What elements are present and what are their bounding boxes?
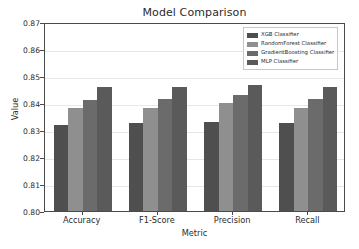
chart-title: Model Comparison bbox=[44, 6, 345, 19]
y-tick-mark bbox=[40, 131, 44, 132]
bar bbox=[68, 108, 83, 211]
bar bbox=[279, 123, 294, 211]
chart-figure: Model Comparison 0.800.810.820.830.840.8… bbox=[0, 0, 359, 249]
bar bbox=[219, 103, 234, 211]
y-tick-label: 0.82 bbox=[4, 154, 40, 163]
y-tick-label: 0.81 bbox=[4, 181, 40, 190]
bar bbox=[294, 108, 309, 211]
y-tick-mark bbox=[40, 77, 44, 78]
legend-label: XGB Classifier bbox=[261, 32, 299, 37]
x-tick-mark bbox=[232, 212, 233, 215]
bar-group bbox=[54, 24, 112, 211]
y-axis-label: Value bbox=[10, 79, 20, 139]
legend-item[interactable]: RandomForest Classifier bbox=[247, 40, 334, 48]
x-tick-label: F1-Score bbox=[139, 215, 175, 225]
bar bbox=[172, 87, 187, 211]
x-tick-label: Precision bbox=[214, 215, 251, 225]
legend-swatch-icon bbox=[247, 33, 258, 38]
bar bbox=[129, 123, 144, 211]
y-tick-mark bbox=[40, 23, 44, 24]
bar bbox=[248, 85, 263, 211]
bar bbox=[233, 95, 248, 211]
y-tick-label: 0.80 bbox=[4, 208, 40, 217]
bar bbox=[204, 122, 219, 211]
y-tick-mark bbox=[40, 50, 44, 51]
bar bbox=[97, 87, 112, 211]
x-tick-label: Recall bbox=[295, 215, 319, 225]
y-tick-mark bbox=[40, 158, 44, 159]
legend-item[interactable]: MLP Classifier bbox=[247, 58, 334, 66]
x-tick-mark bbox=[157, 212, 158, 215]
legend: XGB ClassifierRandomForest ClassifierGra… bbox=[243, 27, 338, 70]
legend-label: GradientBoosting Classifier bbox=[261, 50, 334, 55]
bar-group bbox=[129, 24, 187, 211]
y-tick-mark bbox=[40, 104, 44, 105]
bar bbox=[83, 100, 98, 211]
y-tick-label: 0.87 bbox=[4, 19, 40, 28]
bar bbox=[158, 99, 173, 211]
bar bbox=[323, 87, 338, 211]
legend-item[interactable]: GradientBoosting Classifier bbox=[247, 49, 334, 57]
x-tick-mark bbox=[307, 212, 308, 215]
y-tick-label: 0.86 bbox=[4, 46, 40, 55]
legend-label: RandomForest Classifier bbox=[261, 41, 326, 46]
x-axis-label: Metric bbox=[44, 228, 345, 238]
bar bbox=[143, 108, 158, 211]
bar bbox=[308, 99, 323, 211]
legend-label: MLP Classifier bbox=[261, 59, 298, 64]
y-axis-tick-labels: 0.800.810.820.830.840.850.860.87 bbox=[0, 0, 40, 249]
legend-swatch-icon bbox=[247, 42, 258, 47]
y-tick-mark bbox=[40, 185, 44, 186]
x-tick-mark bbox=[82, 212, 83, 215]
legend-item[interactable]: XGB Classifier bbox=[247, 31, 334, 39]
bar bbox=[54, 125, 69, 211]
y-tick-mark bbox=[40, 212, 44, 213]
legend-swatch-icon bbox=[247, 60, 258, 65]
legend-swatch-icon bbox=[247, 51, 258, 56]
x-tick-label: Accuracy bbox=[63, 215, 100, 225]
